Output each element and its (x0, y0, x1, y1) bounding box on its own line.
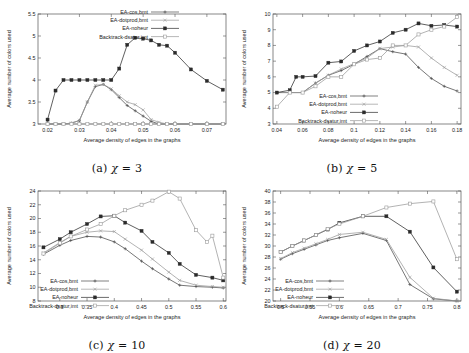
svg-text:16: 16 (30, 243, 36, 249)
svg-text:Average density of edges in th: Average density of edges in the graphs (319, 137, 416, 143)
svg-text:0.03: 0.03 (74, 127, 85, 133)
caption-prefix-a: (a) (92, 162, 108, 175)
caption-chi-a: χ (111, 162, 118, 175)
svg-text:0.4: 0.4 (111, 304, 119, 310)
caption-prefix-d: (d) (323, 339, 339, 352)
caption-eq-d: = 20 (354, 339, 382, 352)
svg-text:0.14: 0.14 (400, 127, 411, 133)
panel-caption-c: (c) χ = 10 (0, 339, 234, 352)
svg-text:12: 12 (30, 270, 36, 276)
svg-text:22: 22 (30, 202, 36, 208)
svg-text:24: 24 (30, 188, 36, 194)
svg-text:EA-noheur: EA-noheur (122, 25, 148, 31)
svg-text:0.45: 0.45 (136, 304, 147, 310)
caption-eq-c: = 10 (118, 339, 146, 352)
svg-text:0.04: 0.04 (272, 127, 283, 133)
svg-text:18: 18 (30, 229, 36, 235)
svg-text:Average density of edges in th: Average density of edges in the graphs (84, 314, 181, 320)
svg-text:0.05: 0.05 (138, 127, 149, 133)
svg-text:Average number of colors used: Average number of colors used (6, 207, 12, 285)
svg-text:Backtrack-dsatur,imt: Backtrack-dsatur,imt (298, 118, 347, 124)
svg-text:Average number of colors used: Average number of colors used (6, 30, 12, 108)
svg-text:0.6: 0.6 (336, 304, 344, 310)
svg-text:5: 5 (33, 33, 36, 39)
svg-text:7: 7 (268, 58, 271, 64)
svg-text:6: 6 (268, 74, 271, 80)
svg-text:40: 40 (265, 188, 271, 194)
svg-text:EA-dotprod,bmt: EA-dotprod,bmt (40, 286, 78, 292)
caption-eq-a: = 3 (122, 162, 142, 175)
svg-text:Backtrack-dsatur,imt: Backtrack-dsatur,imt (99, 34, 148, 40)
panel-caption-a: (a) χ = 3 (0, 162, 234, 175)
svg-text:EA-dotprod,bmt: EA-dotprod,bmt (110, 17, 148, 23)
svg-text:38: 38 (265, 199, 271, 205)
svg-text:4: 4 (268, 105, 271, 111)
svg-text:EA-dotprod,bmt: EA-dotprod,bmt (309, 101, 347, 107)
chart-panel-c: 0.30.350.40.450.50.550.68101214161820222… (0, 177, 234, 353)
svg-text:32: 32 (265, 232, 271, 238)
svg-text:0.6: 0.6 (220, 304, 228, 310)
svg-text:0.12: 0.12 (375, 127, 386, 133)
svg-text:24: 24 (265, 276, 271, 282)
figure-container: 0.020.030.040.050.060.0733.544.555.5Aver… (0, 0, 469, 353)
svg-text:EA-cos,bmt: EA-cos,bmt (319, 93, 347, 99)
chart-panel-a: 0.020.030.040.050.060.0733.544.555.5Aver… (0, 0, 234, 176)
svg-text:0.5: 0.5 (165, 304, 173, 310)
caption-eq-b: = 5 (357, 162, 377, 175)
svg-text:0.08: 0.08 (323, 127, 334, 133)
svg-text:22: 22 (265, 287, 271, 293)
svg-text:0.06: 0.06 (170, 127, 181, 133)
svg-text:Backtrack-dsatur,imt: Backtrack-dsatur,imt (264, 303, 313, 309)
svg-text:3: 3 (268, 121, 271, 127)
plot-c: 0.30.350.40.450.50.550.68101214161820222… (0, 177, 234, 353)
svg-text:0.75: 0.75 (422, 304, 433, 310)
svg-text:34: 34 (265, 221, 271, 227)
svg-text:EA-noheur: EA-noheur (321, 109, 347, 115)
svg-text:0.04: 0.04 (106, 127, 117, 133)
svg-text:0.65: 0.65 (364, 304, 375, 310)
chart-panel-d: 0.50.550.60.650.70.750.82022242628303234… (235, 177, 469, 353)
svg-text:26: 26 (265, 265, 271, 271)
svg-text:8: 8 (268, 42, 271, 48)
plot-a: 0.020.030.040.050.060.0733.544.555.5Aver… (0, 0, 234, 176)
svg-text:0.07: 0.07 (202, 127, 213, 133)
svg-text:0.7: 0.7 (394, 304, 402, 310)
svg-text:0.06: 0.06 (297, 127, 308, 133)
svg-text:0.35: 0.35 (82, 304, 93, 310)
panel-caption-d: (d) χ = 20 (235, 339, 469, 352)
panel-caption-b: (b) χ = 5 (235, 162, 469, 175)
svg-text:0.1: 0.1 (350, 127, 358, 133)
plot-b: 0.040.060.080.10.120.140.160.18345678910… (235, 0, 469, 176)
svg-text:EA-dotprod,bmt: EA-dotprod,bmt (275, 286, 313, 292)
svg-text:5: 5 (268, 89, 271, 95)
svg-text:4.5: 4.5 (28, 55, 36, 61)
svg-text:0.18: 0.18 (452, 127, 463, 133)
caption-chi-b: χ (347, 162, 354, 175)
chart-panel-b: 0.040.060.080.10.120.140.160.18345678910… (235, 0, 469, 176)
svg-text:0.02: 0.02 (42, 127, 53, 133)
svg-text:Average density of edges in th: Average density of edges in the graphs (84, 137, 181, 143)
svg-text:EA-cos,bmt: EA-cos,bmt (120, 9, 148, 15)
svg-text:30: 30 (265, 243, 271, 249)
svg-text:EA-noheur: EA-noheur (287, 294, 313, 300)
svg-text:36: 36 (265, 210, 271, 216)
svg-text:EA-cos,bmt: EA-cos,bmt (285, 278, 313, 284)
caption-prefix-b: (b) (327, 162, 343, 175)
svg-text:0.16: 0.16 (426, 127, 437, 133)
svg-text:10: 10 (265, 11, 271, 17)
svg-text:EA-cos,bmt: EA-cos,bmt (50, 278, 78, 284)
svg-text:Average density of edges in th: Average density of edges in the graphs (319, 314, 416, 320)
svg-text:5.5: 5.5 (28, 11, 36, 17)
svg-text:28: 28 (265, 254, 271, 260)
svg-text:14: 14 (30, 257, 36, 263)
svg-text:0.55: 0.55 (191, 304, 202, 310)
svg-text:10: 10 (30, 284, 36, 290)
svg-text:EA-noheur: EA-noheur (52, 294, 78, 300)
svg-text:0.8: 0.8 (453, 304, 461, 310)
caption-prefix-c: (c) (88, 339, 103, 352)
svg-text:Average number of colors used: Average number of colors used (241, 30, 247, 108)
svg-text:3: 3 (33, 121, 36, 127)
svg-text:4: 4 (33, 77, 36, 83)
caption-chi-d: χ (343, 339, 350, 352)
plot-d: 0.50.550.60.650.70.750.82022242628303234… (235, 177, 469, 353)
